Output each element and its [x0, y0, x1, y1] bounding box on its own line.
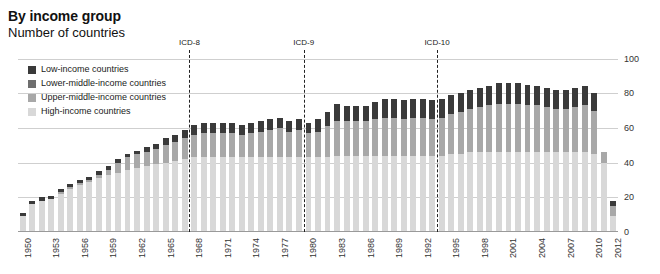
bar-segment-high — [315, 157, 321, 232]
x-tick-label: 1980 — [308, 238, 318, 258]
bar-1965 — [163, 138, 169, 232]
bar-2005 — [544, 88, 550, 232]
bar-2008 — [572, 88, 578, 232]
bar-segment-high — [258, 157, 264, 232]
bar-segment-upper_middle — [401, 119, 407, 155]
bar-segment-upper_middle — [391, 118, 397, 156]
bar-segment-high — [429, 156, 435, 232]
bar-segment-high — [534, 152, 540, 232]
bar-segment-upper_middle — [229, 133, 235, 157]
bar-segment-upper_middle — [315, 132, 321, 158]
bar-segment-upper_middle — [496, 104, 502, 153]
bar-2002 — [515, 83, 521, 232]
bar-segment-upper_middle — [134, 154, 140, 168]
bar-segment-low — [315, 119, 321, 131]
bar-segment-high — [334, 156, 340, 232]
bar-segment-low — [277, 118, 283, 128]
bar-segment-low — [506, 83, 512, 104]
bar-segment-high — [467, 152, 473, 232]
bar-1957 — [86, 177, 92, 232]
bar-segment-low — [353, 106, 359, 122]
bar-segment-high — [67, 189, 73, 232]
bar-segment-high — [134, 168, 140, 232]
bar-segment-upper_middle — [458, 112, 464, 154]
legend-item-lower_middle[interactable]: Lower-middle-income countries — [28, 77, 166, 90]
bar-1975 — [258, 121, 264, 232]
chart-legend: Low-income countriesLower-middle-income … — [28, 63, 166, 119]
bar-1989 — [391, 99, 397, 232]
legend-label: Lower-middle-income countries — [41, 79, 166, 88]
bar-1952 — [39, 197, 45, 232]
bar-2004 — [534, 86, 540, 232]
x-tick-label: 1983 — [337, 238, 347, 258]
bar-segment-upper_middle — [506, 104, 512, 153]
bar-segment-upper_middle — [467, 109, 473, 152]
bar-segment-high — [601, 163, 607, 232]
bar-segment-high — [372, 156, 378, 232]
bar-segment-low — [286, 121, 292, 131]
bar-segment-low — [344, 106, 350, 122]
bar-1955 — [67, 183, 73, 232]
bar-segment-upper_middle — [144, 152, 150, 166]
bar-segment-high — [344, 156, 350, 232]
bar-segment-low — [553, 90, 559, 109]
x-tick-label: 2010 — [594, 238, 604, 258]
legend-item-high[interactable]: High-income countries — [28, 105, 166, 118]
bar-segment-upper_middle — [125, 157, 131, 169]
bar-1963 — [144, 147, 150, 232]
bar-segment-low — [248, 123, 254, 133]
x-tick-label: 2012 — [613, 238, 623, 258]
bar-segment-upper_middle — [277, 128, 283, 157]
bar-segment-upper_middle — [344, 121, 350, 156]
bar-segment-high — [77, 185, 83, 232]
bar-segment-high — [144, 166, 150, 232]
y-tick-60: 60 — [624, 123, 654, 133]
chart-subtitle: Number of countries — [8, 25, 125, 40]
bar-segment-low — [258, 121, 264, 131]
bar-segment-low — [296, 119, 302, 129]
bar-segment-low — [210, 123, 216, 133]
bar-1951 — [29, 201, 35, 232]
bar-segment-high — [277, 157, 283, 232]
bar-segment-high — [125, 170, 131, 232]
bar-segment-high — [220, 157, 226, 232]
bar-segment-upper_middle — [172, 142, 178, 161]
legend-swatch-icon — [28, 108, 36, 116]
icd-label-icd-8: ICD-8 — [179, 38, 200, 47]
bar-1997 — [467, 90, 473, 232]
legend-item-low[interactable]: Low-income countries — [28, 63, 166, 76]
bar-segment-upper_middle — [610, 206, 616, 216]
bar-segment-low — [420, 99, 426, 118]
bar-segment-upper_middle — [582, 105, 588, 152]
x-tick-label: 1956 — [80, 238, 90, 258]
bar-segment-high — [391, 156, 397, 232]
bar-segment-high — [201, 157, 207, 232]
bar-segment-high — [286, 157, 292, 232]
bar-1995 — [448, 95, 454, 232]
bar-segment-high — [382, 156, 388, 232]
bar-segment-high — [486, 152, 492, 232]
bar-segment-high — [239, 157, 245, 232]
bar-segment-high — [563, 152, 569, 232]
bar-segment-low — [325, 112, 331, 126]
bar-1964 — [153, 144, 159, 232]
bar-segment-upper_middle — [163, 145, 169, 162]
bar-segment-upper_middle — [486, 105, 492, 152]
bar-segment-low — [191, 125, 197, 135]
bar-segment-low — [334, 104, 340, 121]
bar-segment-high — [448, 154, 454, 232]
bar-segment-upper_middle — [553, 109, 559, 152]
bar-1984 — [344, 105, 350, 232]
x-tick-label: 1995 — [451, 238, 461, 258]
bar-1959 — [106, 166, 112, 232]
bar-segment-upper_middle — [334, 121, 340, 156]
y-tick-100: 100 — [624, 54, 654, 64]
bar-segment-upper_middle — [220, 133, 226, 157]
icd-label-icd-9: ICD-9 — [293, 38, 314, 47]
chart-container: By income group Number of countries ICD-… — [0, 0, 660, 274]
bar-segment-low — [382, 99, 388, 118]
legend-item-upper_middle[interactable]: Upper-middle-income countries — [28, 91, 166, 104]
bar-segment-low — [267, 119, 273, 129]
x-tick-label: 1977 — [280, 238, 290, 258]
bar-segment-high — [191, 157, 197, 232]
